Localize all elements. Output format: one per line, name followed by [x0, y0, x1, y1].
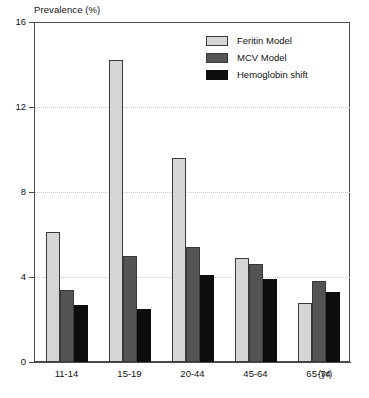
- legend-item: Hemoglobin shift: [206, 66, 308, 83]
- y-tick-label: 12: [0, 101, 26, 112]
- y-tick-mark: [29, 22, 34, 23]
- y-tick-mark: [29, 277, 34, 278]
- legend-swatch: [206, 53, 228, 63]
- bar: [312, 281, 326, 362]
- bar: [172, 158, 186, 362]
- legend: Feritin ModelMCV ModelHemoglobin shift: [206, 32, 308, 83]
- bar: [249, 264, 263, 362]
- bar: [137, 309, 151, 362]
- x-axis-spine: [34, 362, 351, 363]
- legend-item: MCV Model: [206, 49, 308, 66]
- legend-item: Feritin Model: [206, 32, 308, 49]
- legend-swatch: [206, 70, 228, 80]
- bar: [60, 290, 74, 362]
- legend-label: MCV Model: [237, 52, 287, 63]
- bar: [46, 232, 60, 362]
- bar: [123, 256, 137, 362]
- y-axis-title: Prevalence (%): [34, 4, 100, 15]
- y-tick-mark: [29, 107, 34, 108]
- bar: [326, 292, 340, 362]
- x-tick-label: 45-64: [226, 368, 286, 379]
- bar: [186, 247, 200, 362]
- y-tick-label: 0: [0, 356, 26, 367]
- x-axis-unit-label: (yr): [318, 368, 332, 379]
- x-tick-label: 15-19: [100, 368, 160, 379]
- bar: [200, 275, 214, 362]
- bar-chart: Prevalence (%) 0481216 11-1415-1920-4445…: [0, 0, 369, 398]
- bar: [298, 303, 312, 363]
- x-tick-label: 20-44: [163, 368, 223, 379]
- bar-group: [109, 22, 151, 362]
- legend-label: Feritin Model: [237, 35, 292, 46]
- y-tick-label: 16: [0, 16, 26, 27]
- bar: [263, 279, 277, 362]
- y-tick-label: 4: [0, 271, 26, 282]
- bar: [74, 305, 88, 362]
- bar: [235, 258, 249, 362]
- y-tick-mark: [29, 362, 34, 363]
- bar-group: [46, 22, 88, 362]
- x-tick-label: 11-14: [37, 368, 97, 379]
- bar: [109, 60, 123, 362]
- legend-label: Hemoglobin shift: [237, 69, 308, 80]
- y-tick-label: 8: [0, 186, 26, 197]
- y-tick-mark: [29, 192, 34, 193]
- legend-swatch: [206, 36, 228, 46]
